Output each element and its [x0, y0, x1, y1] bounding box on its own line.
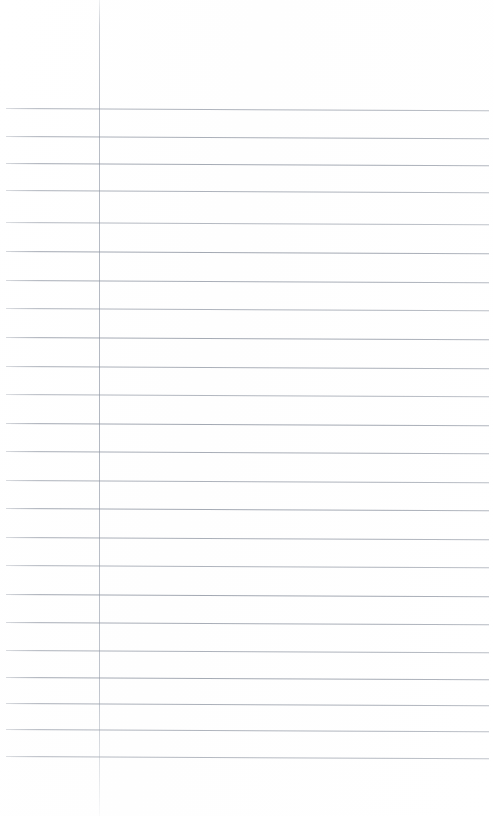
- ruled-line: [6, 729, 489, 732]
- ruled-line: [6, 280, 489, 283]
- paper-page: [0, 0, 494, 816]
- ruled-line: [6, 366, 489, 369]
- ruled-line: [6, 337, 489, 340]
- ruled-line: [6, 480, 489, 483]
- ruled-line: [6, 565, 489, 568]
- ruled-line: [6, 108, 489, 111]
- ruled-line: [6, 451, 489, 454]
- paper-surface: [0, 0, 494, 816]
- ruled-line: [6, 308, 489, 311]
- ruled-line: [6, 537, 489, 540]
- ruled-line: [6, 756, 489, 759]
- ruled-line: [6, 650, 489, 653]
- left-margin-rule: [99, 0, 100, 816]
- ruled-line: [6, 622, 489, 625]
- ruled-line: [6, 222, 489, 225]
- ruled-line: [6, 594, 489, 597]
- ruled-line: [6, 251, 489, 254]
- ruled-line: [6, 703, 489, 706]
- ruled-line: [6, 394, 489, 397]
- ruled-line: [6, 136, 489, 139]
- ruled-line: [6, 677, 489, 680]
- ruled-line: [6, 508, 489, 511]
- ruled-line: [6, 190, 489, 193]
- ruled-line: [6, 163, 489, 166]
- ruled-line: [6, 423, 489, 426]
